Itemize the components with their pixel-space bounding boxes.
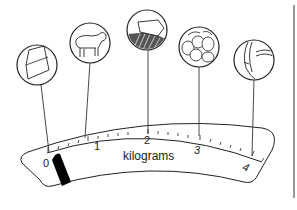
lamb-icon xyxy=(70,23,110,63)
bread-icon xyxy=(127,10,168,52)
cheese-wedge-icon xyxy=(17,45,57,85)
tick-label-2: 2 xyxy=(144,134,150,146)
potatoes-icon xyxy=(179,27,219,67)
tick-label-3: 3 xyxy=(194,144,201,156)
tick-label-0: 0 xyxy=(43,157,49,169)
bag-icon xyxy=(234,40,274,80)
scale-diagram: 0 1 2 3 4 kilograms xyxy=(0,0,297,210)
unit-label: kilograms xyxy=(123,149,174,163)
tick-label-1: 1 xyxy=(94,140,100,152)
